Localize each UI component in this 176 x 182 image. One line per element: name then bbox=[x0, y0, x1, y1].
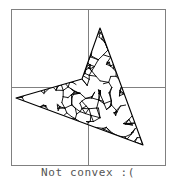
plot-area bbox=[0, 0, 176, 168]
caption-row: Not convex :( bbox=[0, 163, 176, 182]
figure-root: Not convex :( bbox=[0, 0, 176, 182]
caption-label: Not convex :( bbox=[41, 167, 135, 178]
polygon-plot-svg bbox=[0, 0, 176, 168]
